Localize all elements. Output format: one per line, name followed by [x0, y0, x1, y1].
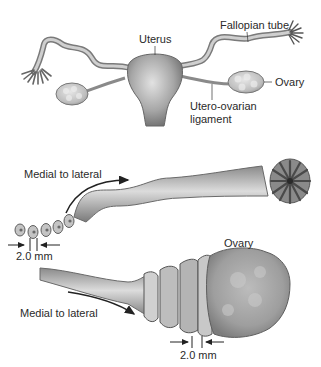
right-fimbriae: [289, 21, 303, 44]
tube-cross-sections: [15, 215, 74, 239]
anatomy-figure: Uterus Fallopian tube Ovary Utero-ovaria…: [0, 0, 321, 367]
ovary-slices: [144, 255, 212, 336]
bottom-panel-ovary-sections: [40, 248, 290, 348]
ovary-mass: [207, 248, 290, 337]
label-uterus: Uterus: [139, 33, 171, 45]
dimension-marker-bottom: [170, 336, 224, 348]
fallopian-tube-segment: [74, 166, 268, 222]
uterus: [127, 54, 182, 126]
label-thickness-top: 2.0 mm: [16, 250, 53, 262]
label-utero-ovarian-line1: Utero-ovarian: [190, 100, 257, 112]
fimbriae-rosette: [270, 159, 310, 203]
label-utero-ovarian-line2: ligament: [190, 113, 232, 125]
left-ovary: [56, 83, 88, 105]
label-ovary: Ovary: [275, 76, 304, 88]
label-thickness-bottom: 2.0 mm: [180, 349, 217, 361]
label-medial-to-lateral-bottom: Medial to lateral: [20, 307, 98, 319]
label-ovary-bottom: Ovary: [224, 237, 253, 249]
label-fallopian-tube: Fallopian tube: [220, 19, 289, 31]
label-medial-to-lateral-top: Medial to lateral: [24, 168, 102, 180]
